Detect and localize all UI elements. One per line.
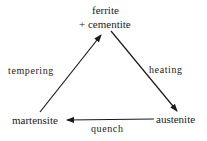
edge-label-quench: quench: [91, 123, 123, 134]
edge-label-heating: heating: [149, 64, 183, 75]
node-austenite: austenite: [156, 113, 195, 125]
edge-label-tempering: tempering: [8, 65, 54, 76]
node-ferrite: ferrite: [92, 4, 119, 16]
quench-arrow: [67, 119, 154, 120]
node-martensite: martensite: [12, 114, 58, 126]
node-cementite: + cementite: [79, 18, 131, 30]
